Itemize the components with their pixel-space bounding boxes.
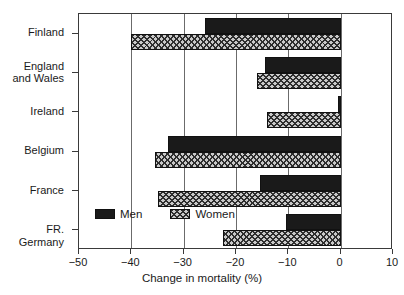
y-tick-label-0: Finland [28, 26, 64, 39]
bar-men-4 [260, 175, 341, 191]
y-tick-mark-3 [72, 151, 78, 152]
legend-label-men: Men [120, 208, 142, 220]
legend-swatch-men-icon [95, 209, 115, 219]
y-tick-mark-0 [72, 33, 78, 34]
y-tick-label-1: England and Wales [12, 60, 64, 85]
y-tick-mark-4 [72, 190, 78, 191]
x-tick-label--10: −10 [267, 256, 307, 268]
legend-label-women: Women [195, 208, 234, 220]
y-tick-mark-5 [72, 229, 78, 230]
x-tick-label-0: 0 [320, 256, 360, 268]
x-tick-mark--10 [287, 249, 288, 254]
legend-entry-women: Women [170, 208, 234, 220]
legend-swatch-women-icon [170, 209, 190, 219]
x-tick-mark--20 [235, 249, 236, 254]
legend-entry-men: Men [95, 208, 142, 220]
bar-men-5 [286, 214, 341, 230]
bar-men-2 [338, 96, 341, 112]
mortality-change-bar-chart: Men Women Change in mortality (%) −50−40… [0, 0, 404, 295]
x-tick-label--30: −30 [163, 256, 203, 268]
y-tick-mark-1 [72, 72, 78, 73]
y-tick-label-2: Ireland [30, 105, 64, 118]
bar-men-0 [205, 18, 341, 34]
y-tick-label-5: FR. Germany [0, 223, 64, 248]
bar-women-3 [155, 152, 341, 168]
x-tick-label-10: 10 [372, 256, 404, 268]
y-tick-label-4: France [30, 184, 64, 197]
bar-men-3 [168, 136, 341, 152]
bar-women-5 [223, 230, 341, 246]
x-tick-mark--30 [183, 249, 184, 254]
gridline-0 [341, 14, 342, 248]
x-tick-label--20: −20 [215, 256, 255, 268]
x-tick-mark--50 [78, 249, 79, 254]
bar-women-4 [158, 191, 341, 207]
x-tick-mark--40 [130, 249, 131, 254]
y-tick-label-3: Belgium [24, 144, 64, 157]
bar-women-1 [257, 73, 341, 89]
x-tick-mark-10 [392, 249, 393, 254]
x-axis-title: Change in mortality (%) [0, 272, 404, 284]
bar-women-2 [267, 112, 340, 128]
x-tick-mark-0 [340, 249, 341, 254]
x-tick-label--50: −50 [58, 256, 98, 268]
x-tick-label--40: −40 [110, 256, 150, 268]
bar-men-1 [265, 57, 341, 73]
y-tick-mark-2 [72, 111, 78, 112]
chart-legend: Men Women [95, 208, 235, 220]
bar-women-0 [131, 34, 340, 50]
